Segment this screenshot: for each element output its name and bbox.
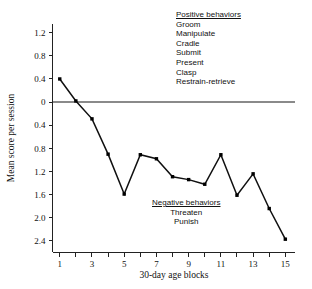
data-point	[58, 77, 61, 80]
x-axis-tick-label: 7	[154, 259, 159, 269]
positive-behavior-item: Submit	[176, 48, 241, 58]
data-point	[235, 194, 238, 197]
x-axis-tick-label: 3	[90, 259, 95, 269]
data-point	[203, 183, 206, 186]
y-axis-ticks	[49, 33, 53, 241]
data-point	[155, 157, 158, 160]
annotation-negative-behaviors: Negative behaviors Threaten Punish	[152, 198, 220, 227]
y-axis-tick-label: 1.6	[34, 190, 46, 200]
x-axis-tick-labels: 13579111315	[58, 259, 291, 269]
data-point	[171, 175, 174, 178]
x-axis-tick-label: 11	[217, 259, 226, 269]
positive-behavior-item: Manipulate	[176, 29, 241, 39]
line-chart-canvas: 1.20.80.400.40.81.21.62.02.4 13579111315…	[0, 0, 312, 289]
x-axis-tick-label: 1	[58, 259, 63, 269]
positive-behavior-item: Restrain-retrieve	[176, 77, 241, 87]
positive-behaviors-header: Positive behaviors	[176, 10, 241, 20]
x-axis-tick-label: 9	[186, 259, 191, 269]
data-point	[251, 172, 254, 175]
data-point	[268, 207, 271, 210]
data-point	[106, 152, 109, 155]
y-axis-tick-labels: 1.20.80.400.40.81.21.62.02.4	[34, 28, 46, 246]
data-point	[187, 178, 190, 181]
x-axis-tick-label: 5	[122, 259, 127, 269]
positive-behavior-item: Cradle	[176, 39, 241, 49]
negative-behavior-item: Threaten	[152, 208, 220, 218]
data-point	[123, 192, 126, 195]
negative-behavior-item: Punish	[152, 217, 220, 227]
x-axis-title: 30-day age blocks	[139, 270, 208, 280]
data-point	[90, 117, 93, 120]
data-point	[219, 153, 222, 156]
y-axis-title: Mean score per session	[6, 94, 16, 183]
annotation-positive-behaviors: Positive behaviors Groom Manipulate Crad…	[176, 10, 241, 87]
positive-behavior-item: Groom	[176, 20, 241, 30]
y-axis-tick-label: 1.2	[34, 167, 45, 177]
data-point	[74, 99, 77, 102]
data-point	[139, 153, 142, 156]
y-axis-tick-label: 0.8	[34, 144, 46, 154]
y-axis-tick-label: 1.2	[34, 28, 45, 38]
y-axis-tick-label: 0.4	[34, 120, 46, 130]
negative-behaviors-header: Negative behaviors	[152, 198, 220, 208]
positive-behavior-item: Present	[176, 58, 241, 68]
x-axis-tick-label: 13	[249, 259, 259, 269]
x-axis-ticks	[60, 253, 286, 257]
y-axis-tick-label: 0	[41, 97, 46, 107]
positive-behavior-item: Clasp	[176, 68, 241, 78]
y-axis-tick-label: 2.4	[34, 236, 46, 246]
y-axis-tick-label: 0.4	[34, 74, 46, 84]
y-axis-tick-label: 0.8	[34, 51, 46, 61]
chart-figure: 1.20.80.400.40.81.21.62.02.4 13579111315…	[0, 0, 312, 289]
y-axis-tick-label: 2.0	[34, 213, 46, 223]
x-axis-tick-label: 15	[281, 259, 291, 269]
data-point	[284, 237, 287, 240]
